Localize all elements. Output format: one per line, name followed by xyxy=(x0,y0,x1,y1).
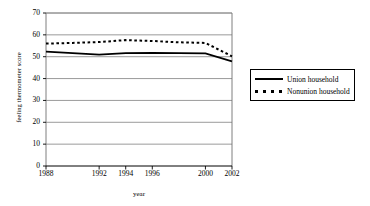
x-axis-tick-label: 1996 xyxy=(137,170,167,178)
x-axis-tick-label: 2000 xyxy=(190,170,220,178)
x-axis-title: year xyxy=(44,190,234,198)
legend-label-nonunion: Nonunion household xyxy=(287,87,350,96)
legend-item-union: Union household xyxy=(254,73,350,85)
legend-label-union: Union household xyxy=(287,75,338,84)
x-axis-tick-label: 2002 xyxy=(217,170,247,178)
chart-legend: Union household Nonunion household xyxy=(250,69,355,101)
dotted-line-swatch-icon xyxy=(254,87,284,95)
chart-container: feeling thermometer score 01020304050607… xyxy=(0,0,370,206)
x-axis-tick-label: 1994 xyxy=(111,170,141,178)
legend-item-nonunion: Nonunion household xyxy=(254,85,350,97)
solid-line-swatch-icon xyxy=(254,75,284,83)
x-axis-tick-label: 1992 xyxy=(84,170,114,178)
x-axis-tick-label: 1988 xyxy=(31,170,61,178)
